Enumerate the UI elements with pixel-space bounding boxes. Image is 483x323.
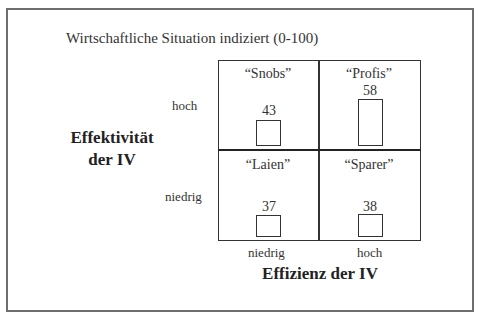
quadrant-bar-laien [256, 215, 281, 237]
quadrant-value-profis: 58 [350, 83, 390, 99]
figure-title: Wirtschaftliche Situation indiziert (0-1… [66, 30, 318, 47]
x-axis-title: Effizienz der IV [250, 264, 390, 284]
quadrant-bar-profis [358, 99, 383, 146]
quadrant-value-sparer: 38 [350, 199, 390, 215]
y-tick-hoch: hoch [172, 98, 197, 114]
quadrant-label-profis: “Profis” [319, 66, 419, 82]
quadrant-value-laien: 37 [249, 199, 289, 215]
quadrant-label-laien: “Laien” [218, 157, 318, 173]
x-tick-hoch: hoch [357, 245, 382, 261]
quadrant-label-sparer: “Sparer” [319, 157, 419, 173]
quadrant-label-snobs: “Snobs” [218, 66, 318, 82]
matrix-horizontal-divider [218, 149, 421, 151]
y-axis-title-line1: Effektivität [52, 128, 172, 148]
y-tick-niedrig: niedrig [165, 189, 202, 205]
quadrant-value-snobs: 43 [249, 103, 289, 119]
quadrant-bar-sparer [358, 214, 383, 237]
x-tick-niedrig: niedrig [248, 245, 285, 261]
quadrant-bar-snobs [256, 120, 281, 146]
y-axis-title-line2: der IV [52, 150, 172, 170]
